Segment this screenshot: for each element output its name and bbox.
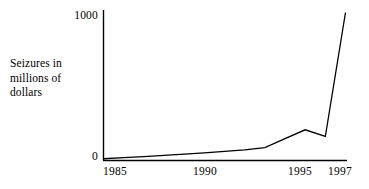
data-series-line bbox=[104, 12, 346, 158]
chart-figure: Seizures in millions of dollars 1000 0 1… bbox=[0, 0, 369, 189]
plot-area bbox=[0, 0, 369, 189]
